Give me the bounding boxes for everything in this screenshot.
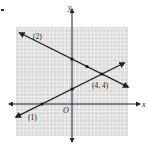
data-point bbox=[70, 87, 73, 90]
x-axis-label: x bbox=[141, 100, 146, 109]
data-point bbox=[40, 102, 43, 105]
data-point bbox=[70, 57, 73, 60]
data-point bbox=[100, 72, 103, 75]
line-2-label: (2) bbox=[33, 32, 42, 41]
intersection-label: (4, 4) bbox=[92, 81, 109, 90]
y-axis-label: y bbox=[67, 3, 72, 12]
coordinate-plane: y x O (1) (2) (4, 4) bbox=[0, 0, 148, 148]
data-point bbox=[85, 65, 88, 68]
line-1-label: (1) bbox=[28, 113, 37, 122]
origin-label: O bbox=[63, 106, 69, 115]
